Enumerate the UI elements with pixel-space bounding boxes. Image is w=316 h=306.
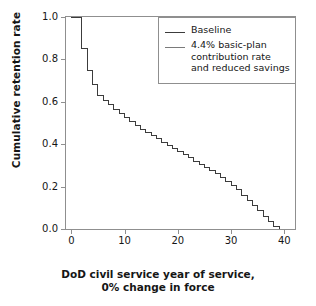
x-tick-label: 30 (216, 235, 246, 246)
x-tick-mark (178, 230, 179, 234)
legend-swatch-alternative (165, 43, 185, 53)
legend-label-alternative: 4.4% basic-plan contribution rate and re… (191, 39, 290, 74)
x-tick-label: 10 (110, 235, 140, 246)
y-tick-label: 0.4 (24, 138, 58, 149)
x-tick-mark (71, 230, 72, 234)
legend-label-baseline: Baseline (191, 24, 231, 36)
y-tick-label: 0.8 (24, 53, 58, 64)
y-tick-label: 0.0 (24, 223, 58, 234)
x-tick-label: 40 (269, 235, 299, 246)
legend-item-baseline: Baseline (165, 24, 295, 38)
legend-label-line3: and reduced savings (191, 62, 290, 73)
x-tick-label: 20 (163, 235, 193, 246)
legend-label-line2: contribution rate (191, 51, 271, 62)
y-tick-label: 0.6 (24, 96, 58, 107)
y-axis-title: Cumulative retention rate (10, 0, 22, 198)
x-axis-title-line1: DoD civil service year of service, (61, 268, 254, 280)
x-axis-title-line2: 0% change in force (101, 281, 214, 293)
legend-swatch-baseline (165, 28, 185, 38)
x-tick-label: 0 (56, 235, 86, 246)
legend: Baseline 4.4% basic-plan contribution ra… (158, 17, 296, 84)
x-tick-mark (284, 230, 285, 234)
retention-rate-chart: Cumulative retention rate 0.00.20.40.60.… (0, 0, 316, 306)
x-tick-mark (125, 230, 126, 234)
x-axis-title: DoD civil service year of service, 0% ch… (0, 268, 316, 294)
y-tick-label: 0.2 (24, 181, 58, 192)
legend-label-line1: 4.4% basic-plan (191, 39, 267, 50)
x-tick-mark (231, 230, 232, 234)
y-tick-label: 1.0 (24, 11, 58, 22)
legend-item-alternative: 4.4% basic-plan contribution rate and re… (165, 39, 295, 74)
